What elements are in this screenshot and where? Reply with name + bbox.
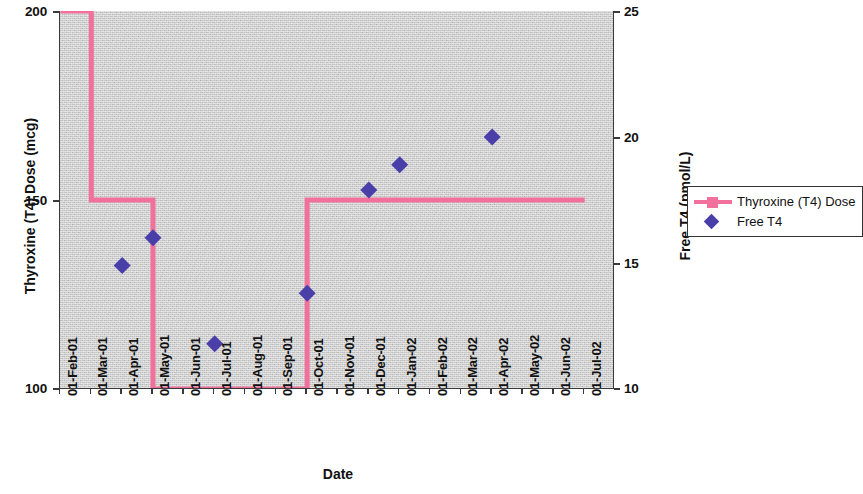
x-axis-tickmark: [305, 389, 307, 394]
y-right-tick-label-25: 25: [624, 4, 639, 19]
free-t4-data-point: [145, 229, 162, 246]
x-axis-tick-label: 01-Jun-02: [558, 337, 573, 396]
y-left-tick-label-200: 200: [0, 4, 47, 19]
dose-step-line: [61, 11, 585, 389]
x-axis-tick-label: 01-Sep-01: [280, 336, 295, 396]
free-t4-data-point: [114, 257, 131, 274]
x-axis-title: Date: [0, 466, 676, 482]
x-axis-tick-label: 01-May-01: [157, 335, 172, 396]
plot-area: [59, 11, 614, 389]
x-axis-tick-label: 01-May-02: [527, 335, 542, 396]
y-right-tickmark: [614, 137, 620, 139]
legend-label-free-t4: Free T4: [737, 214, 782, 229]
x-axis-tick-label: 01-Jul-02: [589, 341, 604, 396]
x-axis-tickmark: [429, 389, 431, 394]
y-left-tick-label-100: 100: [0, 381, 47, 396]
x-axis-tick-label: 01-Mar-02: [465, 337, 480, 396]
plot-canvas: [60, 11, 614, 389]
series-thyroxine-dose: [61, 11, 585, 389]
x-axis-tickmark: [151, 389, 153, 394]
x-axis-tickmark: [367, 389, 369, 394]
x-axis-tick-label: 01-Jul-01: [219, 341, 234, 396]
y-left-tickmark: [53, 11, 59, 13]
free-t4-data-point: [299, 285, 316, 302]
y-left-tickmark: [53, 200, 59, 202]
free-t4-data-point: [360, 181, 377, 198]
x-axis-tick-label: 01-Feb-01: [65, 337, 80, 396]
x-axis-tickmark: [583, 389, 585, 394]
y-right-tick-label-15: 15: [624, 256, 639, 271]
y-right-tick-label-20: 20: [624, 130, 639, 145]
x-axis-tick-label: 01-Jun-01: [188, 337, 203, 396]
x-axis-tickmark: [336, 389, 338, 394]
x-axis-tick-label: 01-Apr-01: [126, 338, 141, 396]
x-axis-tickmark: [120, 389, 122, 394]
x-axis-tick-label: 01-Feb-02: [435, 337, 450, 396]
x-axis-tick-label: 01-Aug-01: [250, 335, 265, 396]
x-axis-tick-label: 01-Dec-01: [373, 336, 388, 396]
x-axis-tick-label: 01-Mar-01: [95, 337, 110, 396]
x-axis-tickmark: [244, 389, 246, 394]
x-axis-tick-label: 01-Apr-02: [496, 338, 511, 396]
free-t4-data-point: [484, 129, 501, 146]
y-axis-left-title: Thyroxine (T4) Dose (mcg): [22, 96, 38, 316]
x-axis-tickmark: [552, 389, 554, 394]
x-axis-tickmark: [90, 389, 92, 394]
x-axis-tickmark: [182, 389, 184, 394]
free-t4-data-point: [391, 156, 408, 173]
legend-item-thyroxine-dose: Thyroxine (T4) Dose: [694, 191, 855, 211]
legend-diamond-icon: [694, 213, 732, 229]
x-axis-tick-label: 01-Nov-01: [342, 336, 357, 396]
x-axis-tickmark: [213, 389, 215, 394]
x-axis-tickmark: [275, 389, 277, 394]
x-axis-tickmark: [460, 389, 462, 394]
y-right-tickmark: [614, 11, 620, 13]
legend-label-thyroxine-dose: Thyroxine (T4) Dose: [737, 194, 855, 209]
y-right-tickmark: [614, 263, 620, 265]
x-axis-tickmark: [59, 389, 61, 394]
legend-line-square-icon: [694, 193, 732, 209]
x-axis-tickmark: [398, 389, 400, 394]
y-right-tick-label-10: 10: [624, 381, 639, 396]
x-axis-tick-label: 01-Jan-02: [404, 338, 419, 396]
chart-legend: Thyroxine (T4) Dose Free T4: [687, 186, 863, 237]
y-right-tickmark: [614, 388, 620, 390]
legend-item-free-t4: Free T4: [694, 211, 855, 231]
x-axis-tickmark: [521, 389, 523, 394]
x-axis-tickmark: [490, 389, 492, 394]
x-axis-tick-label: 01-Oct-01: [311, 339, 326, 396]
